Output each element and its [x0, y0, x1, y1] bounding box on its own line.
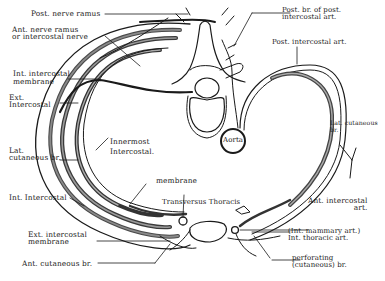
label-perforating-br: perforating (cutaneous) br.: [292, 255, 347, 268]
left-thoracic-art: [179, 217, 187, 225]
label-lat-cutaneous-br-right: Lat. cutaneous br.: [330, 120, 378, 133]
sternum: [190, 221, 227, 242]
label-post-br-of-post-intercostal-art: Post. br. of post. intercostal art.: [282, 7, 341, 20]
label-ant-nerve-ramus: Ant. nerve ramus or intercostal nerve: [12, 26, 88, 40]
label-lat-cutaneous-br-left: Lat. cutaneous br.: [9, 147, 61, 161]
label-ant-intercostal-art: Ant. intercostal art.: [308, 197, 368, 211]
label-post-nerve-ramus: Post. nerve ramus: [31, 10, 100, 17]
ant-nerve-ramus-line: [60, 80, 192, 112]
label-int-intercostal: Int. Intercostal: [9, 194, 67, 201]
label-ant-cutaneous-br: Ant. cutaneous br.: [22, 260, 92, 267]
vertebral-canal: [195, 78, 219, 98]
label-int-mammary-art: (Int. mammary art.) Int. thoracic art.: [288, 228, 360, 242]
right-thoracic-art: [232, 227, 239, 234]
label-ext-intercostal: Ext. Intercostal: [9, 94, 51, 108]
label-post-intercostal-art: Post. intercostal art.: [272, 39, 346, 46]
right-muscle: [272, 74, 332, 205]
right-outer-wall: [240, 65, 346, 240]
left-innermost: [77, 50, 162, 215]
right-lat-cutaneous: [340, 145, 356, 178]
label-ext-intercostal-membrane: Ext. intercostal membrane: [28, 231, 87, 245]
label-membrane: membrane: [156, 177, 197, 184]
label-innermost-intercostal: Innermost Intercostal.: [110, 137, 154, 157]
label-aorta: Aorta: [223, 137, 243, 144]
label-transversus-thoracis: Transversus Thoracis: [162, 199, 240, 206]
left-inner-membrane: [83, 48, 184, 212]
vertebral-body: [190, 98, 225, 132]
label-int-intercostal-membrane: Int. intercostal membrane: [13, 70, 70, 86]
intercostal-diagram: Post. nerve ramus Ant. nerve ramus or in…: [0, 0, 385, 281]
